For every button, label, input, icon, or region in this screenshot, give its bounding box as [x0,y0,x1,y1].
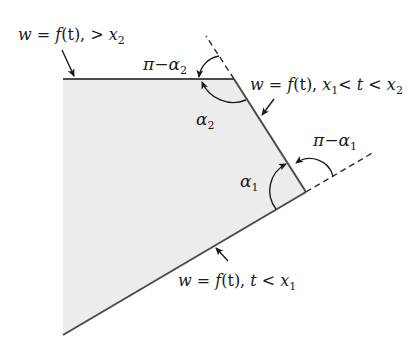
label-bottom-edge: w = f(t), t < x1 [178,271,296,293]
label-pi-minus-alpha1: π−α1 [312,130,357,153]
label-top-edge: w = f(t), > x2 [18,25,125,47]
shaded-region [63,79,306,335]
label-middle-edge: w = f(t), x1< t < x2 [250,75,403,97]
label-pi-minus-alpha2: π−α2 [142,54,187,77]
dashed-extension-upper [206,36,234,79]
pointer-arrow-middle-edge-icon [262,99,274,115]
arc-pi-minus-alpha2-icon [199,56,219,77]
pointer-arrow-bottom-edge-icon [216,248,228,261]
conformal-mapping-polygon-diagram: w = f(t), > x2 π−α2 α2 w = f(t), x1< t <… [0,0,420,350]
pointer-arrow-top-edge-icon [62,50,74,76]
dashed-extension-lower [306,152,374,192]
arc-pi-minus-alpha1-icon [296,159,333,176]
